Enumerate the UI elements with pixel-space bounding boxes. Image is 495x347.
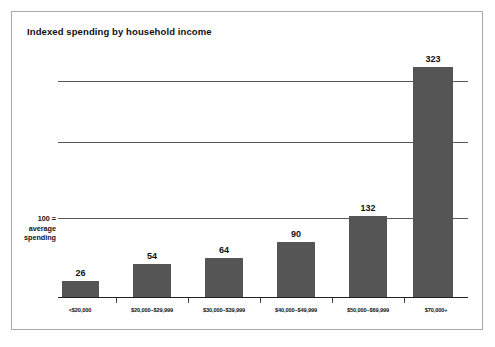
category-label-2: $30,000–$39,999 — [188, 307, 260, 313]
category-label-0: <$20,000 — [48, 307, 112, 313]
category-label-1: $20,000–$29,999 — [116, 307, 188, 313]
baseline-annotation-line-1: 100 = — [12, 214, 56, 224]
bar-value-3: 90 — [277, 229, 315, 239]
bar-value-1: 54 — [133, 251, 171, 261]
bar-3[interactable] — [277, 242, 315, 297]
bar-4[interactable] — [349, 216, 387, 297]
category-label-4: $50,000–$69,999 — [332, 307, 404, 313]
chart-screenshot: Indexed spending by household income 100… — [0, 0, 495, 347]
axis-tick-0 — [116, 298, 117, 303]
gridline-100 — [58, 218, 448, 219]
chart-frame: Indexed spending by household income 100… — [11, 11, 483, 330]
gridline-tick-100 — [453, 218, 468, 219]
gridline-350 — [58, 81, 448, 82]
axis-tick-1 — [188, 298, 189, 303]
gridline-tick-225 — [453, 142, 468, 143]
bar-value-0: 26 — [62, 268, 99, 278]
gridline-tick-350 — [453, 81, 468, 82]
baseline-annotation-line-3: spending — [12, 233, 56, 243]
bar-value-2: 64 — [205, 245, 243, 255]
gridline-225 — [58, 142, 448, 143]
axis-tick-3 — [332, 298, 333, 303]
x-axis-baseline — [58, 297, 468, 298]
baseline-annotation-line-2: average — [12, 224, 56, 234]
bar-value-4: 132 — [349, 203, 387, 213]
bar-2[interactable] — [205, 258, 243, 297]
baseline-annotation: 100 = average spending — [12, 214, 56, 243]
axis-tick-2 — [260, 298, 261, 303]
bar-0[interactable] — [62, 281, 99, 297]
bar-5[interactable] — [413, 67, 453, 297]
plot-area: 100 = average spending 26 54 64 90 132 3… — [12, 12, 484, 331]
bar-1[interactable] — [133, 264, 171, 297]
bar-value-5: 323 — [413, 54, 453, 64]
category-label-5: $70,000+ — [404, 307, 468, 313]
category-label-3: $40,000–$49,999 — [260, 307, 332, 313]
axis-tick-4 — [404, 298, 405, 303]
